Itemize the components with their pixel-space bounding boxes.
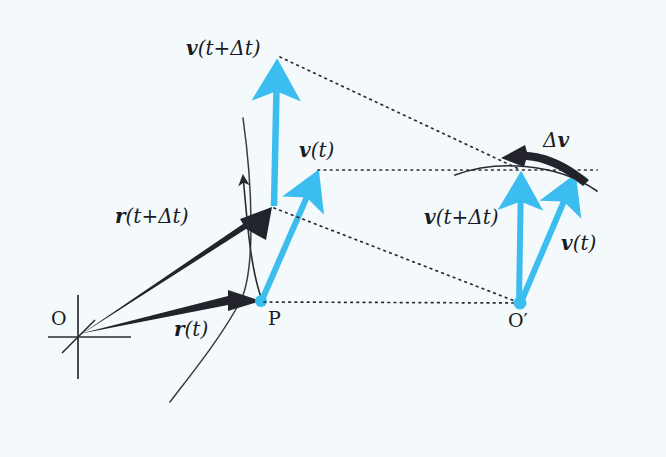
label-v-t-dt-left: v(t+Δt) (186, 38, 261, 58)
label-v-t-dt-left-symbol: v (186, 36, 198, 60)
label-point-p: P (268, 309, 281, 328)
point-origin-prime-dot (514, 297, 527, 310)
label-r-t-arg: (t) (185, 317, 209, 341)
tangent-direction-arrow (243, 176, 262, 300)
label-r-t-symbol: r (174, 317, 185, 341)
label-v-t-left: v(t) (299, 140, 334, 160)
label-v-t-dt-right-arg: (t+Δt) (436, 205, 499, 229)
label-delta-v: Δv (543, 130, 569, 150)
label-v-t-right-arg: (t) (573, 231, 597, 255)
point-p-dot (255, 295, 267, 307)
label-delta-v-symbol: v (557, 128, 569, 152)
label-origin-prime: O′ (508, 311, 528, 330)
label-v-t-dt-left-arg: (t+Δt) (198, 36, 261, 60)
velocity-vector-v-t-dt-at-q (274, 66, 277, 206)
velocity-vector-v-t-dt-at-origin-prime (519, 178, 521, 302)
trajectory-curve (170, 118, 251, 402)
label-r-t-dt-arg: (t+Δt) (126, 204, 189, 228)
label-v-t-right: v(t) (561, 233, 596, 253)
label-v-t-left-symbol: v (299, 138, 311, 162)
label-origin: O (51, 309, 67, 328)
label-v-t-dt-right: v(t+Δt) (424, 207, 499, 227)
physics-vector-diagram: O P O′ r(t) r(t+Δt) v(t) v(t+Δt) v(t+Δt)… (0, 0, 666, 457)
label-v-t-dt-right-symbol: v (424, 205, 436, 229)
label-v-t-right-symbol: v (561, 231, 573, 255)
dotted-connector-p-to-origin-prime (264, 302, 520, 303)
label-r-t: r(t) (174, 319, 208, 339)
velocity-vector-v-t-at-p (262, 176, 316, 300)
label-r-t-dt: r(t+Δt) (115, 206, 188, 226)
diagram-canvas (0, 0, 666, 457)
label-r-t-dt-symbol: r (115, 204, 126, 228)
label-delta-v-delta: Δ (543, 128, 557, 152)
label-v-t-left-arg: (t) (311, 138, 335, 162)
